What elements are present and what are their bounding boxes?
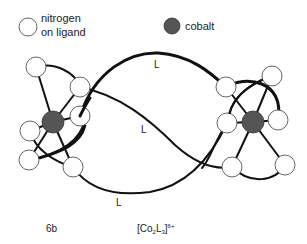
legend-nitrogen-icon: [19, 18, 37, 36]
legend: nitrogen on ligand cobalt: [19, 12, 214, 38]
nitrogen-node: [70, 77, 90, 97]
helicate-diagram: nitrogen on ligand cobalt: [0, 0, 307, 244]
cobalt-node-left: [42, 111, 64, 133]
nitrogen-node: [26, 57, 46, 77]
ligand-label-bottom: L: [116, 197, 122, 208]
legend-nitrogen-label-1: nitrogen: [41, 12, 81, 24]
nitrogen-node: [20, 121, 40, 141]
ligand-label-top: L: [154, 59, 160, 70]
nitrogen-node: [268, 110, 288, 130]
nitrogen-node: [262, 66, 282, 86]
nitrogen-node: [222, 157, 242, 177]
formula-label: [Co2L3]6+: [137, 223, 175, 235]
nitrogen-node: [216, 77, 236, 97]
diagram-canvas: nitrogen on ligand cobalt: [0, 0, 307, 244]
ligand-label-middle: L: [141, 124, 147, 135]
ligand-strand-top: [80, 53, 226, 116]
nitrogen-node: [217, 113, 237, 133]
nitrogen-node: [275, 155, 295, 175]
legend-cobalt-label: cobalt: [185, 20, 214, 32]
nitrogen-node: [63, 157, 83, 177]
nitrogen-node: [19, 150, 39, 170]
legend-cobalt-icon: [164, 18, 180, 34]
cobalt-node-right: [242, 111, 264, 133]
ligand-strand-bottom: [73, 123, 227, 193]
compound-id-label: 6b: [46, 223, 58, 234]
legend-nitrogen-label-2: on ligand: [41, 26, 86, 38]
